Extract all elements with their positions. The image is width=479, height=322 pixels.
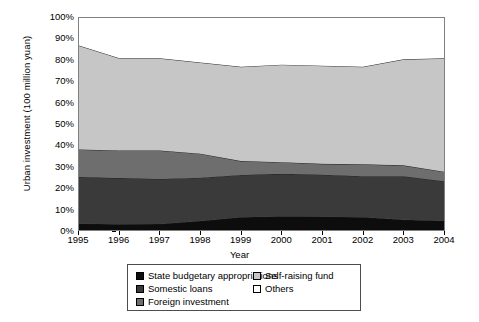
- legend-swatch-icon: [136, 272, 144, 280]
- y-tick-label: 50%: [40, 119, 74, 129]
- legend-item-label: Somestic loans: [148, 284, 212, 294]
- legend-item-label: Foreign investment: [148, 297, 229, 307]
- legend-item-label: Others: [265, 284, 294, 294]
- x-tick-mark: [78, 231, 79, 235]
- y-tick-label: 20%: [40, 183, 74, 193]
- x-tick-mark: [241, 231, 242, 235]
- x-tick-label: 2004: [424, 234, 464, 245]
- x-tick-mark: [444, 231, 445, 235]
- y-tick-label: 100%: [40, 12, 74, 21]
- y-tick-mark: [112, 231, 116, 232]
- y-tick-label: 70%: [40, 76, 74, 86]
- y-tick-label: 80%: [40, 55, 74, 65]
- x-axis-tick-labels: 1995199619971998199920002001200220032004: [0, 234, 479, 248]
- legend-item[interactable]: Somestic loans: [136, 283, 212, 295]
- legend-swatch-icon: [136, 285, 144, 293]
- y-axis-title: Urban investment (100 million yuan): [21, 14, 32, 214]
- x-tick-label: 2000: [261, 234, 301, 245]
- x-tick-label: 1997: [139, 234, 179, 245]
- chart-legend: State budgetary appropriationsSomestic l…: [127, 264, 361, 311]
- x-tick-label: 1998: [180, 234, 220, 245]
- chart-figure: Urban investment (100 million yuan) 0%10…: [0, 0, 479, 322]
- y-tick-label: 90%: [40, 34, 74, 44]
- legend-item-label: Self-raising fund: [265, 271, 334, 281]
- y-tick-label: 40%: [40, 141, 74, 151]
- x-tick-mark: [119, 231, 120, 235]
- legend-item[interactable]: Others: [253, 283, 294, 295]
- legend-swatch-icon: [136, 298, 144, 306]
- y-tick-label: 10%: [40, 205, 74, 215]
- x-tick-label: 2003: [383, 234, 423, 245]
- legend-swatch-icon: [253, 285, 261, 293]
- legend-item[interactable]: Self-raising fund: [253, 270, 334, 282]
- x-tick-mark: [281, 231, 282, 235]
- x-tick-label: 1996: [99, 234, 139, 245]
- y-axis-tick-labels: 0%10%20%30%40%50%60%70%80%90%100%: [38, 17, 74, 231]
- area-series-somestic-loans: [79, 174, 444, 224]
- x-axis-title: Year: [0, 249, 479, 260]
- x-tick-mark: [403, 231, 404, 235]
- x-tick-label: 2001: [302, 234, 342, 245]
- x-tick-label: 1995: [58, 234, 98, 245]
- x-tick-mark: [200, 231, 201, 235]
- x-tick-mark: [322, 231, 323, 235]
- plot-area: [78, 17, 445, 231]
- y-tick-label: 30%: [40, 162, 74, 172]
- stacked-area-series-group: [79, 18, 444, 230]
- x-tick-label: 1999: [221, 234, 261, 245]
- x-tick-mark: [363, 231, 364, 235]
- x-tick-mark: [159, 231, 160, 235]
- y-tick-label: 60%: [40, 98, 74, 108]
- legend-swatch-icon: [253, 272, 261, 280]
- x-tick-label: 2002: [343, 234, 383, 245]
- legend-item[interactable]: Foreign investment: [136, 296, 229, 308]
